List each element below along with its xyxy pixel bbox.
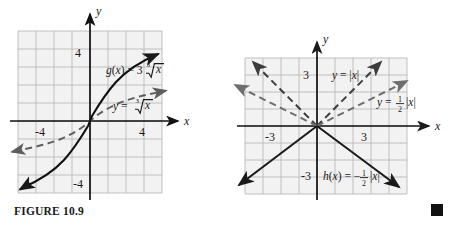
- figure-caption-10-9: FIGURE 10.9: [14, 205, 84, 217]
- y-axis-label: y: [322, 32, 329, 46]
- plot-area-cbrt: -4 4 4 -4 x y g(x) = 3 3 x: [0, 0, 233, 205]
- x-tick-neg4: -4: [35, 125, 45, 139]
- svg-text:y =: y =: [376, 96, 391, 109]
- svg-text:g(x) = 3: g(x) = 3: [106, 64, 143, 77]
- figure-page: -4 4 4 -4 x y g(x) = 3 3 x: [0, 0, 467, 243]
- svg-text:|x|: |x|: [370, 170, 380, 183]
- x-axis-label: x: [434, 119, 441, 133]
- y-tick-neg4: -4: [73, 177, 83, 191]
- plot-area-absolute-value: -3 3 3 -3 x y: [233, 0, 467, 205]
- end-of-section-square: [431, 204, 443, 216]
- svg-text:y = |x|: y = |x|: [331, 69, 359, 82]
- svg-text:y =: y =: [112, 100, 127, 113]
- label-y-abs: y = |x|: [331, 69, 359, 82]
- svg-text:h(x) = −: h(x) = −: [323, 170, 360, 183]
- svg-text:x: x: [155, 63, 162, 75]
- svg-text:1: 1: [362, 169, 366, 178]
- svg-text:3: 3: [147, 61, 151, 69]
- y-tick-pos4: 4: [75, 46, 81, 60]
- svg-text:2: 2: [362, 179, 366, 188]
- y-tick-neg3: -3: [301, 169, 311, 183]
- x-axis-label: x: [183, 114, 190, 128]
- label-g-of-x: g(x) = 3 3 x: [106, 61, 164, 77]
- x-tick-neg3: -3: [265, 130, 275, 144]
- figure-10-9: -4 4 4 -4 x y g(x) = 3 3 x: [0, 0, 233, 243]
- svg-text:2: 2: [398, 105, 402, 114]
- svg-text:3: 3: [136, 97, 140, 105]
- y-tick-pos3: 3: [303, 68, 309, 82]
- svg-text:|x|: |x|: [406, 96, 416, 109]
- svg-text:1: 1: [398, 95, 402, 104]
- x-tick-pos3: 3: [361, 130, 367, 144]
- x-tick-pos4: 4: [139, 125, 145, 139]
- svg-text:x: x: [144, 99, 151, 111]
- y-axis-label: y: [95, 4, 102, 18]
